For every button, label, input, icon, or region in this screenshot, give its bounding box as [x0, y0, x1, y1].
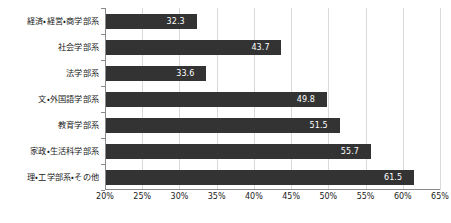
category-tick-mark [101, 60, 105, 61]
value-tick-label: 25% [133, 192, 151, 201]
bar-row: 49.8 [105, 92, 440, 107]
bar-row: 61.5 [105, 170, 440, 185]
value-tick-label: 45% [282, 192, 300, 201]
value-tick-label: 55% [357, 192, 375, 201]
value-tick-label: 20% [96, 192, 114, 201]
category-tick-mark [101, 86, 105, 87]
category-axis: 経済・経営・商学部系社会学部系法学部系文・外国語学部系教育学部系家政・生活科学部… [0, 0, 103, 190]
category-label: 教育学部系 [58, 118, 99, 132]
value-tick-label: 35% [208, 192, 226, 201]
bar-row: 32.3 [105, 14, 440, 29]
category-tick-mark [101, 164, 105, 165]
category-label: 理・工学部系・その他 [27, 170, 99, 184]
category-tick-mark [101, 34, 105, 35]
bar-value-label: 55.7 [341, 147, 359, 156]
bar-value-label: 49.8 [297, 95, 315, 104]
category-label: 文・外国語学部系 [38, 92, 99, 106]
value-tick-label: 50% [319, 192, 337, 201]
bar[interactable] [105, 144, 371, 159]
bar[interactable] [105, 92, 327, 107]
bar-row: 33.6 [105, 66, 440, 81]
bar[interactable] [105, 118, 340, 133]
bar-value-label: 43.7 [251, 43, 269, 52]
bar[interactable] [105, 170, 414, 185]
category-label: 法学部系 [66, 66, 99, 80]
category-label: 家政・生活科学部系 [30, 144, 99, 158]
category-tick-mark [101, 112, 105, 113]
bar-row: 55.7 [105, 144, 440, 159]
value-tick-label: 65% [431, 192, 449, 201]
gridline [440, 8, 441, 190]
value-tick-label: 60% [394, 192, 412, 201]
bar-value-label: 32.3 [167, 17, 185, 26]
bar-row: 43.7 [105, 40, 440, 55]
category-tick-mark [101, 138, 105, 139]
bar-value-label: 51.5 [310, 121, 328, 130]
bar-row: 51.5 [105, 118, 440, 133]
axis-baseline [105, 189, 440, 190]
bar-value-label: 61.5 [384, 173, 402, 182]
value-axis-line [105, 8, 106, 190]
category-label: 社会学部系 [58, 40, 99, 54]
category-tick-mark [101, 8, 105, 9]
bar-value-label: 33.6 [176, 69, 194, 78]
bar-chart: 経済・経営・商学部系社会学部系法学部系文・外国語学部系教育学部系家政・生活科学部… [0, 0, 451, 223]
value-axis-tick-labels: 20%25%30%35%40%45%50%55%60%65% [105, 192, 440, 208]
category-label: 経済・経営・商学部系 [27, 14, 99, 28]
value-tick-label: 30% [171, 192, 189, 201]
category-tick-mark [101, 190, 105, 191]
plot-area: 32.343.733.649.851.555.761.5 [105, 8, 440, 190]
value-tick-label: 40% [245, 192, 263, 201]
